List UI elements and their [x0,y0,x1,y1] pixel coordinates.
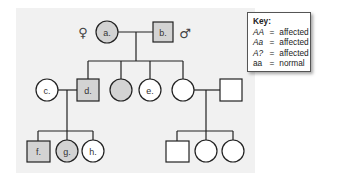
label-c: c. [43,86,50,96]
label-a: a. [103,28,111,38]
key-row: AA= affected [253,27,310,38]
female-symbol-icon: ♀ [78,25,88,40]
label-e: e. [146,86,154,96]
legend-key: Key: AA= affected Aa= affected A?= affec… [247,12,311,72]
label-g: g. [63,147,71,157]
key-title: Key: [253,16,310,27]
individual-female-gen3-2 [222,140,244,162]
label-h: h. [89,147,97,157]
label-f: f. [36,147,41,157]
equals: = [267,37,277,48]
equals: = [267,27,277,38]
equals: = [267,58,277,69]
genotype: Aa [253,37,267,48]
genotype: AA [253,27,267,38]
key-row: A?= affected [253,48,310,59]
phenotype: normal [279,58,304,68]
phenotype: affected [279,48,308,58]
equals: = [267,48,277,59]
label-d: d. [84,86,92,96]
phenotype: affected [279,27,308,37]
label-b: b. [159,28,167,38]
genotype: A? [253,48,267,59]
individual-female-gen3-1 [195,140,217,162]
key-row: Aa= affected [253,37,310,48]
individual-female-gen2 [172,79,194,101]
male-symbol-icon: ♂ [179,26,191,41]
key-row: aa= normal [253,58,310,69]
phenotype: affected [279,37,308,47]
genotype: aa [253,58,267,69]
individual-male-gen3 [166,141,189,162]
individual-male-spouse [220,79,242,101]
individual-affected-female-gen2 [110,79,132,101]
